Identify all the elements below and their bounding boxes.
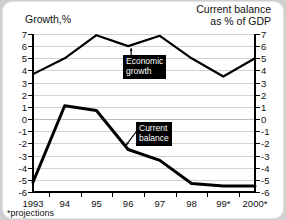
y-tick-right [256,156,260,157]
gridline [33,119,255,120]
y-tick-right [256,34,260,35]
x-tick [207,193,208,197]
y-tick-right [256,168,260,169]
y-axis-left-label: -4 [5,163,27,174]
y-tick-right [256,143,260,144]
gridline [33,83,255,84]
x-tick [112,193,113,197]
y-axis-left-label: 4 [5,65,27,76]
y-axis-left-label: -3 [5,151,27,162]
callout-economic-growth: Economic growth [123,55,166,79]
y-axis-right-label: 2 [261,90,266,101]
y-axis-left-label: -1 [5,126,27,137]
y-axis-left-label: 2 [5,90,27,101]
y-axis-right [254,34,256,193]
y-tick-right [256,119,260,120]
x-axis-label: 2000* [235,198,275,209]
gridline [33,168,255,169]
growth-callout-arrow-head [130,48,133,51]
y-tick-right [256,46,260,47]
y-axis-right-label: -2 [261,138,269,149]
y-tick-right [256,83,260,84]
y-axis-left-label: 3 [5,78,27,89]
y-tick-right [256,192,260,193]
y-axis-left-label: 6 [5,41,27,52]
gridline [33,46,255,47]
y-tick-right [256,107,260,108]
y-axis-right-label: -6 [261,187,269,198]
gridline [33,156,255,157]
y-axis-right-label: -4 [261,163,269,174]
y-axis-right-label: -3 [261,151,269,162]
x-tick [239,193,240,197]
x-tick [144,193,145,197]
series-line [33,106,255,186]
left-axis-title: Growth,% [25,13,71,25]
y-axis-left-label: 7 [5,29,27,40]
y-tick-right [256,70,260,71]
y-tick-right [256,95,260,96]
footnote: *projections [7,208,54,218]
gridline [33,95,255,96]
x-tick [176,193,177,197]
y-axis-left-label: 1 [5,102,27,113]
y-axis-right-label: 6 [261,41,266,52]
y-axis-right-label: 4 [261,65,266,76]
y-axis-right-label: -5 [261,175,269,186]
y-axis-left-label: -6 [5,187,27,198]
x-tick [49,193,50,197]
y-axis-right-label: 7 [261,29,266,40]
right-axis-title-line2: as % of GDP [196,16,271,28]
gridline [33,34,255,35]
y-axis-right-label: 5 [261,53,266,64]
callout-economic-growth-line2: growth [126,67,163,77]
y-tick-right [256,131,260,132]
y-tick-right [256,58,260,59]
y-axis-left-label: 5 [5,53,27,64]
right-axis-title: Current balance as % of GDP [196,4,271,27]
callout-current-balance: Current balance [136,122,172,146]
y-axis-left-label: 0 [5,114,27,125]
y-axis-left-label: -2 [5,138,27,149]
y-axis-right-label: 3 [261,78,266,89]
gridline [33,180,255,181]
callout-current-balance-line2: balance [139,134,169,144]
y-axis-right-label: -1 [261,126,269,137]
chart-card: Growth,% Current balance as % of GDP 765… [3,2,283,218]
gridline [33,107,255,108]
y-axis-right-label: 0 [261,114,266,125]
x-tick [81,193,82,197]
right-axis-title-line1: Current balance [196,4,271,16]
y-tick-right [256,180,260,181]
y-axis-right-label: 1 [261,102,266,113]
y-axis-left-label: -5 [5,175,27,186]
y-axis-left [32,34,34,193]
